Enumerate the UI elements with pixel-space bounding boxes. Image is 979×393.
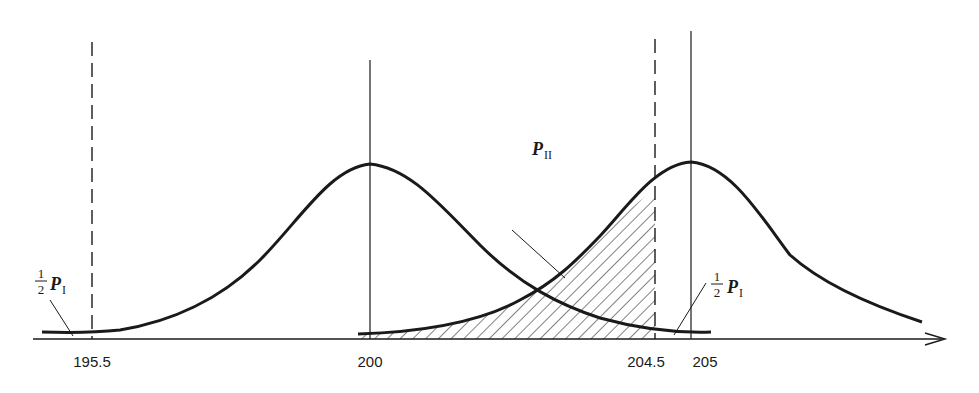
svg-text:2: 2 [38, 282, 45, 297]
svg-text:1: 1 [38, 266, 45, 281]
label-p2: P II [531, 139, 552, 162]
svg-text:P: P [49, 274, 62, 294]
label-half-p1-left: 1 2 P I [35, 266, 66, 297]
svg-text:I: I [739, 286, 743, 300]
tick-label-200: 200 [357, 353, 382, 370]
diagram-canvas: 195.5 200 204.5 205 1 2 P I P II 1 2 P I [0, 0, 979, 393]
svg-text:I: I [62, 283, 66, 297]
svg-text:II: II [544, 148, 552, 162]
leader-p2 [512, 230, 565, 278]
svg-text:P: P [726, 277, 739, 297]
svg-text:2: 2 [714, 285, 721, 300]
svg-text:P: P [531, 139, 544, 159]
svg-text:1: 1 [714, 269, 721, 284]
shaded-region-p2 [358, 180, 655, 340]
leader-half-p1-right [674, 283, 706, 335]
tick-label-205: 205 [692, 353, 717, 370]
tick-label-195-5: 195.5 [73, 353, 111, 370]
label-half-p1-right: 1 2 P I [711, 269, 743, 300]
leader-half-p1-left [50, 300, 73, 336]
tick-label-204-5: 204.5 [627, 353, 665, 370]
